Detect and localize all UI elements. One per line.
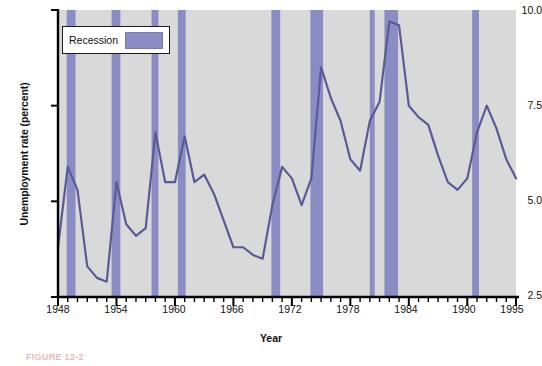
- recession-band: [370, 10, 375, 297]
- unemployment-rate-figure: Unemployment rate (percent) Year 10.0 7.…: [0, 0, 542, 366]
- x-tick-label-1990: 1990: [442, 303, 486, 315]
- x-tick-label-1966: 1966: [210, 303, 254, 315]
- y-tick-label-5: 5.0: [508, 194, 542, 206]
- recession-band: [271, 10, 280, 297]
- legend-label: Recession: [69, 34, 125, 46]
- x-tick-label-1972: 1972: [268, 303, 312, 315]
- y-tick-label-2-5: 2.5: [508, 289, 542, 301]
- x-tick-label-1978: 1978: [326, 303, 370, 315]
- x-tick-label-1960: 1960: [152, 303, 196, 315]
- y-axis-label: Unemployment rate (percent): [18, 54, 30, 254]
- legend: Recession: [62, 26, 170, 54]
- y-tick-label-7-5: 7.5: [508, 99, 542, 111]
- x-tick-label-1984: 1984: [384, 303, 428, 315]
- x-tick-label-1954: 1954: [94, 303, 138, 315]
- x-tick-label-1948: 1948: [36, 303, 80, 315]
- y-tick-label-10: 10.0: [508, 4, 542, 16]
- recession-band: [310, 10, 323, 297]
- x-tick-label-1995: 1995: [490, 303, 534, 315]
- x-axis-label: Year: [0, 332, 542, 344]
- figure-caption: FIGURE 12-2: [26, 352, 84, 362]
- legend-swatch-recession: [125, 32, 163, 49]
